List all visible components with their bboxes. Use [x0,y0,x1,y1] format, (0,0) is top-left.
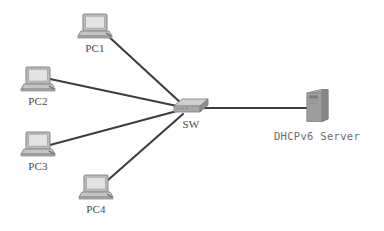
node-label-pc1: PC1 [73,42,117,54]
desktop-computer-icon [16,65,60,95]
network-topology-diagram: PC1 PC2 [0,0,384,231]
node-pc3[interactable]: PC3 [16,130,60,172]
node-label-pc2: PC2 [16,95,60,107]
node-dhcpv6-server[interactable]: DHCPv6 Server [262,88,372,142]
node-pc4[interactable]: PC4 [74,173,118,215]
server-tower-icon [302,88,332,124]
desktop-computer-icon [74,173,118,203]
node-label-dhcpv6-server: DHCPv6 Server [262,130,372,142]
node-sw[interactable]: SW [170,96,212,130]
node-label-pc3: PC3 [16,160,60,172]
desktop-computer-icon [16,130,60,160]
link-pc3-sw [50,111,177,145]
node-pc2[interactable]: PC2 [16,65,60,107]
switch-icon [170,96,212,118]
node-label-pc4: PC4 [74,203,118,215]
desktop-computer-icon [73,12,117,42]
node-label-sw: SW [170,118,212,130]
node-pc1[interactable]: PC1 [73,12,117,54]
